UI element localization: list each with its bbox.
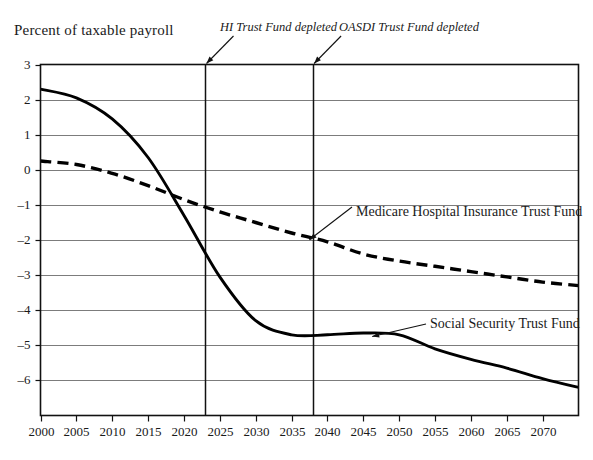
y-tick-label: 1 [5,127,31,143]
plot-frame [41,65,579,416]
oasdi-depleted-annotation-label: OASDI Trust Fund depleted [339,20,479,35]
x-tick-marks [42,416,544,422]
chart-container: Percent of taxable payroll HI Trust Fund… [0,0,593,460]
y-tick-label: –3 [5,267,31,283]
y-tick-label: –2 [5,232,31,248]
y-tick-label: –1 [5,197,31,213]
y-tick-label: –5 [5,337,31,353]
y-tick-label: 0 [5,162,31,178]
plot-area [0,0,593,460]
callout-arrows [206,36,426,338]
medicare-line [41,161,579,286]
x-tick-label: 2070 [522,424,566,440]
y-tick-label: –4 [5,302,31,318]
y-tick-label: 3 [5,57,31,73]
social-security-series-label: Social Security Trust Fund [430,316,580,332]
y-axis-title: Percent of taxable payroll [14,22,174,39]
event-vertical-lines [206,65,314,416]
hi-depleted-annotation-label: HI Trust Fund depleted [220,20,337,35]
y-tick-label: 2 [5,92,31,108]
medicare-callout-leader [309,207,352,240]
medicare-series-label: Medicare Hospital Insurance Trust Fund [356,204,582,220]
data-series [41,89,579,387]
gridlines [41,101,579,381]
y-tick-label: –6 [5,372,31,388]
